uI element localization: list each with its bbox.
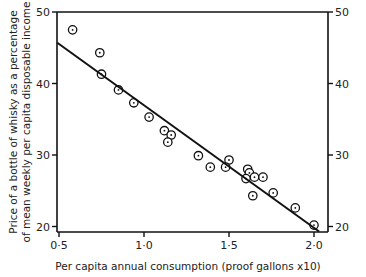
y-axis-title-line2: of mean weekly per capita disposable inc… <box>20 2 32 243</box>
data-point <box>291 204 299 212</box>
x-tick-label: 1·0 <box>135 239 153 252</box>
y-axis-title-line1: Price of a bottle of whisky as a percent… <box>7 10 19 233</box>
axis-ticks: 20304050203040500·51·01·52·0 <box>36 6 349 252</box>
data-point <box>96 49 104 57</box>
data-point <box>249 192 257 200</box>
x-axis-title: Per capita annual consumption (proof gal… <box>55 260 320 272</box>
scatter-chart: 20304050203040500·51·01·52·0 Per capita … <box>0 0 366 277</box>
right-y-tick-label: 30 <box>335 149 349 162</box>
right-y-tick-label: 50 <box>335 6 349 19</box>
data-points <box>68 26 318 230</box>
right-y-tick-label: 20 <box>335 221 349 234</box>
x-tick-label: 2·0 <box>305 239 323 252</box>
regression-line <box>57 43 319 232</box>
x-tick-label: 0·5 <box>50 239 68 252</box>
plot-frame <box>57 12 328 232</box>
right-y-tick-label: 40 <box>335 78 349 91</box>
y-tick-label: 20 <box>36 221 50 234</box>
data-point <box>68 26 76 34</box>
data-point <box>259 173 267 181</box>
y-tick-label: 50 <box>36 6 50 19</box>
y-tick-label: 30 <box>36 149 50 162</box>
data-point <box>145 113 153 121</box>
data-point <box>250 173 258 181</box>
y-tick-label: 40 <box>36 78 50 91</box>
data-point <box>194 152 202 160</box>
data-point <box>164 138 172 146</box>
x-tick-label: 1·5 <box>220 239 238 252</box>
data-point <box>206 163 214 171</box>
